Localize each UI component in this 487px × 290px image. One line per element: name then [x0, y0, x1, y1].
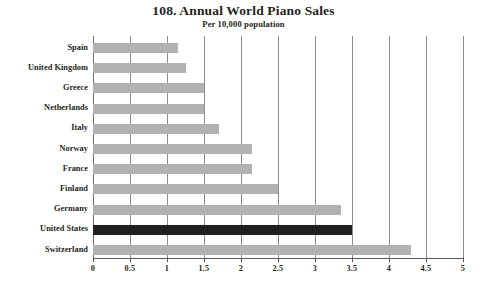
x-axis-ticks: 00.511.522.533.544.55	[93, 258, 464, 278]
bar-row: United Kingdom	[93, 58, 463, 78]
bar-row: Spain	[93, 38, 463, 58]
bar-row: Netherlands	[93, 99, 463, 119]
category-label-france: France	[63, 162, 88, 176]
tick-label-4.5: 4.5	[421, 264, 432, 273]
category-label-norway: Norway	[60, 142, 88, 156]
bar-italy	[93, 124, 219, 134]
tick-mark-2.5	[278, 258, 279, 262]
bar-france	[93, 164, 252, 174]
bar-row: France	[93, 159, 463, 179]
bar-row: Finland	[93, 179, 463, 199]
tick-mark-2	[241, 258, 242, 262]
tick-mark-0.5	[130, 258, 131, 262]
category-label-netherlands: Netherlands	[44, 101, 88, 115]
tick-mark-3.5	[352, 258, 353, 262]
tick-mark-1	[167, 258, 168, 262]
plot-area: SpainUnited KingdomGreeceNetherlandsItal…	[93, 36, 463, 258]
tick-label-0.5: 0.5	[125, 264, 136, 273]
chart-title: 108. Annual World Piano Sales	[0, 3, 487, 18]
bar-spain	[93, 43, 178, 53]
gridline-5	[463, 36, 464, 258]
bar-row: Germany	[93, 200, 463, 220]
tick-label-3.5: 3.5	[347, 264, 358, 273]
category-label-finland: Finland	[60, 182, 88, 196]
tick-label-1: 1	[165, 264, 169, 273]
tick-label-2: 2	[239, 264, 243, 273]
tick-mark-4.5	[426, 258, 427, 262]
tick-label-1.5: 1.5	[199, 264, 210, 273]
tick-label-0: 0	[91, 264, 95, 273]
category-label-greece: Greece	[63, 81, 88, 95]
tick-mark-4	[389, 258, 390, 262]
bar-row: Italy	[93, 119, 463, 139]
category-label-germany: Germany	[54, 202, 88, 216]
bar-united-kingdom	[93, 63, 186, 73]
bar-finland	[93, 184, 278, 194]
bar-netherlands	[93, 104, 204, 114]
tick-mark-1.5	[204, 258, 205, 262]
category-label-united-kingdom: United Kingdom	[28, 61, 88, 75]
category-label-united-states: United States	[40, 222, 88, 236]
bar-greece	[93, 83, 204, 93]
category-label-switzerland: Switzerland	[45, 243, 88, 257]
tick-label-4: 4	[387, 264, 391, 273]
tick-label-3: 3	[313, 264, 317, 273]
tick-mark-3	[315, 258, 316, 262]
chart-subtitle: Per 10,000 population	[0, 19, 487, 30]
tick-label-2.5: 2.5	[273, 264, 284, 273]
category-label-spain: Spain	[67, 41, 88, 55]
bar-row: Greece	[93, 78, 463, 98]
bar-germany	[93, 205, 341, 215]
bar-united-states	[93, 225, 352, 235]
bar-row: Norway	[93, 139, 463, 159]
tick-label-5: 5	[461, 264, 465, 273]
tick-mark-5	[463, 258, 464, 262]
category-label-italy: Italy	[71, 121, 88, 135]
bar-row: United States	[93, 220, 463, 240]
bar-norway	[93, 144, 252, 154]
tick-mark-0	[93, 258, 94, 262]
piano-sales-bar-chart: 108. Annual World Piano Sales Per 10,000…	[0, 0, 487, 290]
bar-switzerland	[93, 245, 411, 255]
